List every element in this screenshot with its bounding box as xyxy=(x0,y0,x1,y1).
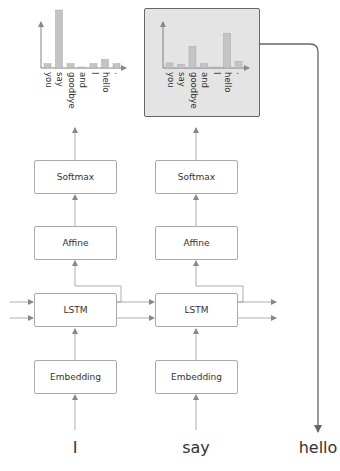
softmax-layer-box-1: Softmax xyxy=(34,160,117,194)
bar-goodbye xyxy=(189,46,196,68)
chart-1-bars xyxy=(44,10,120,68)
affine-label: Affine xyxy=(183,238,209,248)
category-label: I xyxy=(212,72,221,75)
category-label: hello xyxy=(224,72,233,93)
bar- xyxy=(235,61,242,68)
bar-hello xyxy=(224,33,231,68)
affine-layer-box-2: Affine xyxy=(155,226,238,260)
bar- xyxy=(113,64,120,68)
category-label: I xyxy=(90,72,99,75)
bar-I xyxy=(212,67,219,68)
embedding-layer-box-1: Embedding xyxy=(34,360,117,394)
category-label: hello xyxy=(102,72,111,93)
softmax-layer-box-2: Softmax xyxy=(155,160,238,194)
category-label: . xyxy=(113,72,122,75)
bar-say xyxy=(56,10,63,68)
category-label: goodbye xyxy=(189,72,198,109)
category-label: and xyxy=(79,72,88,88)
bar-you xyxy=(166,63,173,68)
affine-layer-box-1: Affine xyxy=(34,226,117,260)
input-word-1: I xyxy=(55,438,95,457)
chart-2-bars xyxy=(166,33,242,68)
category-label: say xyxy=(178,72,187,87)
bar-goodbye xyxy=(67,64,74,68)
lstm-layer-box-2: LSTM xyxy=(155,293,238,327)
category-label: goodbye xyxy=(67,72,76,109)
category-label: say xyxy=(56,72,65,87)
category-label: . xyxy=(235,72,244,75)
category-label: and xyxy=(201,72,210,88)
bar-you xyxy=(44,64,51,68)
embedding-label: Embedding xyxy=(171,372,222,382)
lstm-label: LSTM xyxy=(64,305,88,315)
input-word-2: say xyxy=(170,438,222,457)
sample-output-arrow xyxy=(260,44,318,432)
bar-say xyxy=(178,64,185,68)
chart-2-axes xyxy=(163,22,249,68)
bar-hello xyxy=(102,59,109,68)
category-label: you xyxy=(166,72,175,88)
bar-and xyxy=(79,67,86,68)
lstm-layer-box-1: LSTM xyxy=(34,293,117,327)
softmax-label: Softmax xyxy=(57,172,94,182)
affine-label: Affine xyxy=(62,238,88,248)
embedding-label: Embedding xyxy=(50,372,101,382)
lstm-label: LSTM xyxy=(185,305,209,315)
bar-I xyxy=(90,64,97,68)
category-label: you xyxy=(44,72,53,88)
chart-1-axes xyxy=(41,22,126,68)
bar-and xyxy=(201,64,208,68)
embedding-layer-box-2: Embedding xyxy=(155,360,238,394)
output-word: hello xyxy=(292,438,340,457)
softmax-label: Softmax xyxy=(178,172,215,182)
